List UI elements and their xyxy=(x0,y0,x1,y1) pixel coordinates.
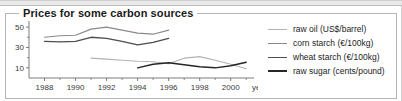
legend-item-raw-sugar[interactable]: raw sugar (cents/pound) xyxy=(268,64,398,78)
legend-swatch-raw-oil xyxy=(268,29,287,30)
fieldset-border-left xyxy=(5,13,19,14)
y-tick-label: 30 xyxy=(15,43,24,52)
x-tick-label: 1988 xyxy=(36,83,54,92)
legend-label-wheat-starch: wheat starch (€/100kg) xyxy=(293,52,379,62)
legend-swatch-raw-sugar xyxy=(268,70,287,72)
x-tick-label: 1992 xyxy=(98,83,116,92)
x-tick-label: 2000 xyxy=(222,83,240,92)
legend-item-corn-starch[interactable]: corn starch (€/100kg) xyxy=(268,36,398,50)
chart-svg: 1030501988199019921994199619982000year xyxy=(8,18,258,96)
x-axis-label: year xyxy=(252,83,258,92)
window-top-strip xyxy=(0,0,402,6)
series-line-corn-starch xyxy=(45,27,169,37)
x-tick-label: 1990 xyxy=(67,83,85,92)
legend-item-wheat-starch[interactable]: wheat starch (€/100kg) xyxy=(268,50,398,64)
chart-panel-root: Prices for some carbon sources 103050198… xyxy=(0,0,402,101)
legend-label-corn-starch: corn starch (€/100kg) xyxy=(293,38,373,48)
legend-swatch-corn-starch xyxy=(268,43,287,44)
plot-area: 1030501988199019921994199619982000year xyxy=(8,18,258,96)
legend-item-raw-oil[interactable]: raw oil (US$/barrel) xyxy=(268,22,398,36)
y-tick-label: 10 xyxy=(15,64,24,73)
legend-swatch-wheat-starch xyxy=(268,57,287,58)
x-tick-label: 1996 xyxy=(160,83,178,92)
legend-label-raw-sugar: raw sugar (cents/pound) xyxy=(293,66,385,76)
x-tick-label: 1994 xyxy=(129,83,147,92)
series-line-wheat-starch xyxy=(45,37,169,45)
x-tick-label: 1998 xyxy=(191,83,209,92)
legend-label-raw-oil: raw oil (US$/barrel) xyxy=(293,24,366,34)
series-line-raw-sugar xyxy=(138,62,247,68)
y-tick-label: 50 xyxy=(15,23,24,32)
chart-legend: raw oil (US$/barrel) corn starch (€/100k… xyxy=(268,22,398,78)
